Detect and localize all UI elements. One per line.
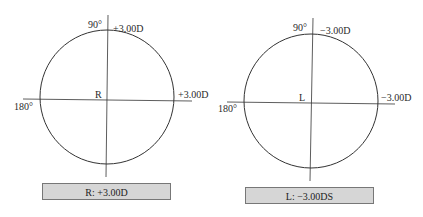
right-eye-horizontal-meridian <box>23 99 192 101</box>
left-horizontal-power-label: −3.00D <box>381 93 411 103</box>
right-eye-power-cross <box>23 15 192 177</box>
right-axis-180-label: 180° <box>14 102 33 112</box>
right-summary-box: R: +3.00D <box>42 183 171 200</box>
left-eye-vertical-meridian <box>310 18 313 181</box>
left-axis-180-label: 180° <box>218 104 237 114</box>
left-axis-90-label: 90° <box>293 23 307 33</box>
right-vertical-power-label: +3.00D <box>113 24 143 34</box>
left-summary-box: L: −3.00DS <box>245 187 374 204</box>
left-center-label: L <box>299 93 305 103</box>
left-eye-power-cross <box>227 18 395 181</box>
left-eye-horizontal-meridian <box>227 102 395 104</box>
left-vertical-power-label: −3.00D <box>320 26 350 36</box>
right-center-label: R <box>95 90 102 100</box>
right-horizontal-power-label: +3.00D <box>178 90 208 100</box>
right-eye-vertical-meridian <box>106 15 108 177</box>
right-axis-90-label: 90° <box>88 20 102 30</box>
